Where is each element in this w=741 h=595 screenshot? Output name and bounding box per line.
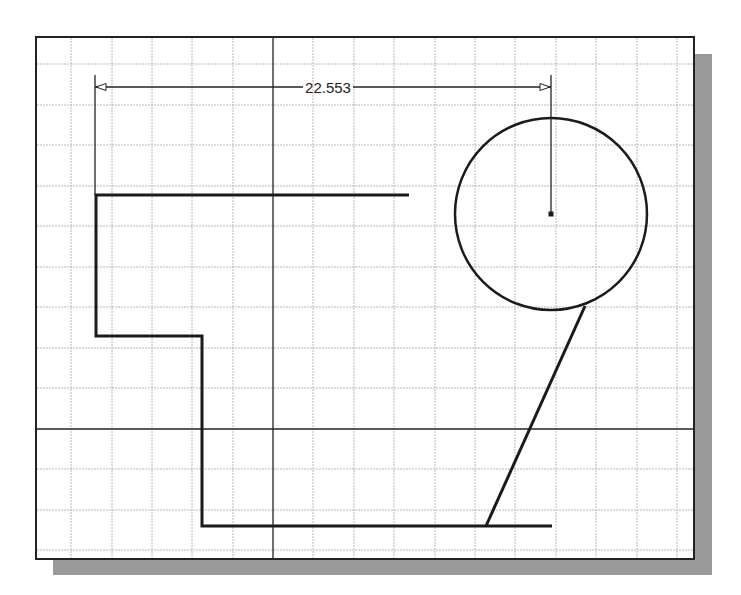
circle-center-point[interactable] (549, 212, 554, 217)
dimension-value[interactable]: 22.553 (305, 79, 351, 96)
sketch-canvas[interactable]: 22.553 (0, 0, 741, 595)
